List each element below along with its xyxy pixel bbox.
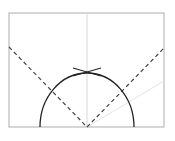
dashed-line-left	[9, 47, 87, 127]
faint-ray	[87, 81, 164, 127]
construction-diagram	[0, 0, 175, 141]
